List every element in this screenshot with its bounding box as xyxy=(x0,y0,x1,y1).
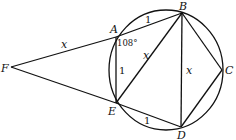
point-label-E: E xyxy=(107,105,116,118)
segment-BD xyxy=(181,13,182,127)
circumcircle xyxy=(109,10,223,130)
segment-label-BD: x xyxy=(186,64,193,77)
point-label-F: F xyxy=(0,62,9,75)
point-label-B: B xyxy=(178,0,187,13)
geometry-diagram: F A B C D E x 1 1 x x 1 108° xyxy=(0,0,236,140)
segment-label-EB: x xyxy=(143,49,150,62)
segment-label-ED: 1 xyxy=(144,115,150,126)
segment-FE xyxy=(11,67,116,103)
segment-label-FA: x xyxy=(61,38,68,51)
point-label-D: D xyxy=(176,129,186,140)
point-label-A: A xyxy=(109,23,118,36)
point-label-C: C xyxy=(225,64,234,77)
segment-label-AB: 1 xyxy=(145,14,151,25)
segment-label-AE: 1 xyxy=(119,65,125,76)
angle-label-A: 108° xyxy=(117,38,137,48)
